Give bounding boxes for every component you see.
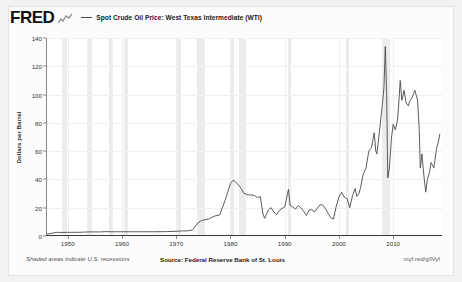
y-tick-label: 40 bbox=[35, 176, 42, 183]
y-tick-label: 80 bbox=[35, 119, 42, 126]
x-tick-mark bbox=[230, 236, 231, 239]
chart-header: FRED Spot Crude Oil Price: West Texas In… bbox=[10, 6, 262, 28]
permalink-url[interactable]: myf.red/g/lVyf bbox=[404, 256, 440, 262]
x-tick-label: 1990 bbox=[278, 240, 292, 247]
series-line-wti bbox=[46, 38, 442, 236]
x-tick-label: 1960 bbox=[115, 240, 129, 247]
x-tick-mark bbox=[122, 236, 123, 239]
x-axis-line bbox=[46, 235, 442, 236]
y-tick-label: 60 bbox=[35, 148, 42, 155]
x-tick-label: 1950 bbox=[61, 240, 75, 247]
y-tick-mark bbox=[43, 207, 46, 208]
x-tick-mark bbox=[285, 236, 286, 239]
x-tick-mark bbox=[176, 236, 177, 239]
chart-footer: Shaded areas indicate U.S. recessions So… bbox=[0, 256, 462, 270]
y-tick-mark bbox=[43, 38, 46, 39]
y-tick-mark bbox=[43, 122, 46, 123]
chart-legend: Spot Crude Oil Price: West Texas Interme… bbox=[81, 14, 262, 21]
legend-label-wti: Spot Crude Oil Price: West Texas Interme… bbox=[96, 14, 262, 21]
y-axis-line bbox=[46, 38, 47, 236]
x-tick-label: 2010 bbox=[386, 240, 400, 247]
recession-note: Shaded areas indicate U.S. recessions bbox=[26, 256, 129, 262]
y-tick-label: 20 bbox=[35, 204, 42, 211]
fred-logo: FRED bbox=[10, 9, 54, 26]
plot-wrapper: 020406080100120140 195019601970198019902… bbox=[46, 38, 442, 236]
x-tick-mark bbox=[393, 236, 394, 239]
x-tick-label: 2000 bbox=[332, 240, 346, 247]
y-tick-label: 120 bbox=[32, 63, 42, 70]
y-tick-mark bbox=[43, 151, 46, 152]
legend-swatch-wti bbox=[81, 17, 92, 18]
y-tick-mark bbox=[43, 94, 46, 95]
y-tick-label: 0 bbox=[39, 233, 42, 240]
source-note: Source: Federal Reserve Bank of St. Loui… bbox=[160, 256, 285, 263]
fred-squiggle-icon bbox=[58, 11, 72, 23]
x-tick-label: 1970 bbox=[169, 240, 183, 247]
x-tick-mark bbox=[339, 236, 340, 239]
y-tick-mark bbox=[43, 66, 46, 67]
plot-area bbox=[46, 38, 442, 236]
y-axis-title: Dollars per Barrel bbox=[14, 38, 24, 236]
y-tick-label: 100 bbox=[32, 91, 42, 98]
x-tick-mark bbox=[68, 236, 69, 239]
y-tick-label: 140 bbox=[32, 35, 42, 42]
y-tick-mark bbox=[43, 236, 46, 237]
y-axis-title-label: Dollars per Barrel bbox=[16, 111, 23, 163]
fred-chart-widget: FRED Spot Crude Oil Price: West Texas In… bbox=[0, 0, 462, 282]
y-tick-mark bbox=[43, 179, 46, 180]
x-tick-label: 1980 bbox=[224, 240, 238, 247]
